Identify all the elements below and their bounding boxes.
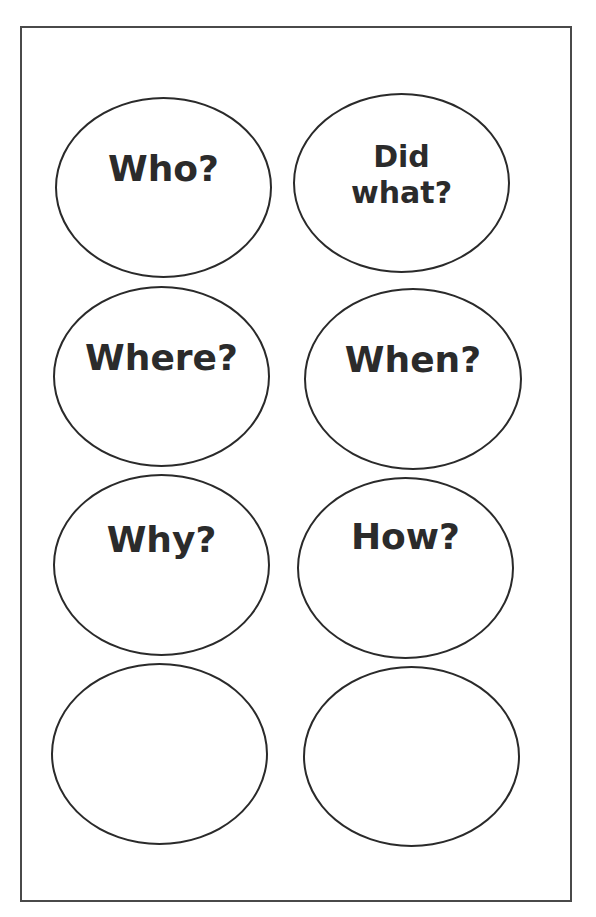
bubble-label: Did what? <box>295 139 508 211</box>
bubble-label: How? <box>299 519 512 555</box>
bubble-blank-1 <box>51 663 268 845</box>
bubble-how: How? <box>297 477 514 659</box>
bubble-label: Why? <box>55 522 268 558</box>
bubble-blank-2 <box>303 666 520 847</box>
bubble-label: When? <box>306 342 520 378</box>
bubble-when: When? <box>304 288 522 470</box>
bubble-who: Who? <box>55 97 272 278</box>
bubble-label: Who? <box>57 151 270 187</box>
bubble-why: Why? <box>53 474 270 656</box>
bubble-label: Where? <box>55 340 268 376</box>
bubble-did-what: Did what? <box>293 93 510 273</box>
bubble-where: Where? <box>53 286 270 467</box>
